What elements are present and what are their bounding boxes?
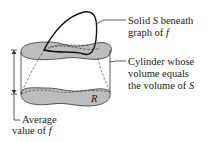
arrow-head-up-icon xyxy=(12,50,17,54)
cylinder-label-line1: Cylinder whose xyxy=(128,56,195,67)
solid-label-line2: graph of f xyxy=(128,27,171,38)
arrow-head-down-icon xyxy=(12,90,17,94)
region-R-label: R xyxy=(90,93,98,104)
avg-leader-line xyxy=(14,94,20,120)
diagram: Solid S beneath graph of f Cylinder whos… xyxy=(0,0,213,142)
average-label-line2: value of f xyxy=(12,125,54,136)
solid-leader-line xyxy=(96,20,126,24)
cylinder-label-line2: volume equals xyxy=(128,68,189,79)
cylinder-leader-line xyxy=(110,61,126,62)
solid-label-line1: Solid S beneath xyxy=(128,15,194,26)
solid-dashed-right-edge xyxy=(98,58,110,92)
cylinder-label-line3: the volume of S xyxy=(128,80,195,91)
average-label-line1: Average xyxy=(22,114,57,125)
